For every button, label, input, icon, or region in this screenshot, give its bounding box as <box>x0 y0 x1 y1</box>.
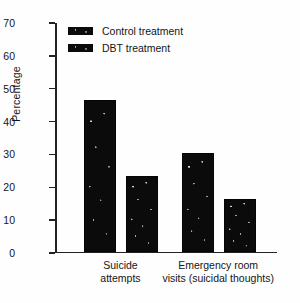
legend-label: DBT treatment <box>102 42 170 54</box>
y-tick-label: 10 <box>0 214 15 226</box>
category-label: Emergency roomvisits (suicidal thoughts) <box>138 259 298 284</box>
y-tick-mark <box>49 219 55 220</box>
chart-legend: Control treatment DBT treatment <box>68 22 183 56</box>
legend-item-dbt: DBT treatment <box>68 39 183 56</box>
bar <box>84 100 116 251</box>
legend-label: Control treatment <box>102 25 183 37</box>
bar-chart-figure: Percentage 010203040506070 Suicideattemp… <box>0 0 300 303</box>
y-tick-mark <box>49 252 55 253</box>
legend-swatch-icon <box>68 27 93 35</box>
y-tick-label: 20 <box>0 181 15 193</box>
x-axis-line <box>55 252 277 254</box>
y-tick-mark <box>49 121 55 122</box>
bar <box>224 199 256 252</box>
y-tick-label: 60 <box>0 50 15 62</box>
y-tick-label: 40 <box>0 116 15 128</box>
y-tick-mark <box>49 22 55 23</box>
bar <box>126 176 158 252</box>
y-tick-label: 70 <box>0 17 15 29</box>
bar-series-container <box>56 23 277 252</box>
category-label-line: Emergency room <box>138 259 298 272</box>
y-tick-mark <box>49 154 55 155</box>
category-label-line: visits (suicidal thoughts) <box>138 272 298 285</box>
plot-area: 010203040506070 <box>55 23 277 253</box>
y-tick-label: 0 <box>0 247 15 259</box>
legend-item-control: Control treatment <box>68 22 183 39</box>
y-tick-label: 50 <box>0 83 15 95</box>
y-tick-mark <box>49 55 55 56</box>
y-tick-mark <box>49 88 55 89</box>
legend-swatch-icon <box>68 44 93 52</box>
bar <box>182 153 214 252</box>
y-tick-mark <box>49 187 55 188</box>
y-tick-label: 30 <box>0 148 15 160</box>
